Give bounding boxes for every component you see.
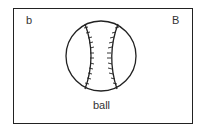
word-label: ball (0, 99, 203, 111)
baseball-icon (0, 0, 203, 132)
